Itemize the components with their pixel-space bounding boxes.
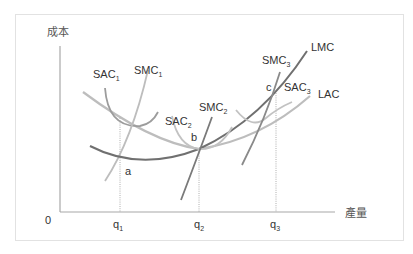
sac1-curve: [105, 88, 158, 126]
tick-q1: q1: [113, 218, 123, 232]
label-sac1: SAC1: [93, 68, 120, 82]
tick-q2: q2: [194, 218, 204, 232]
origin-label: 0: [45, 214, 51, 226]
point-b-label: b: [191, 131, 197, 143]
label-smc2: SMC2: [199, 101, 227, 115]
label-sac2: SAC2: [165, 115, 192, 129]
point-a-label: a: [125, 165, 132, 177]
point-c-label: c: [266, 81, 272, 93]
label-smc3: SMC3: [262, 54, 290, 68]
label-sac3: SAC3: [284, 81, 311, 95]
label-lmc: LMC: [311, 41, 334, 53]
y-axis-label: 成本: [47, 25, 69, 39]
x-axis-label: 產量: [345, 206, 367, 220]
cost-curves-diagram: 成本 產量 0 q1 q2 q3 SAC1 SMC1 SAC2 SMC2 SMC…: [0, 0, 413, 254]
label-smc1: SMC1: [134, 64, 162, 78]
smc2-curve: [181, 117, 212, 200]
tick-q3: q3: [270, 218, 280, 232]
label-lac: LAC: [318, 88, 339, 100]
